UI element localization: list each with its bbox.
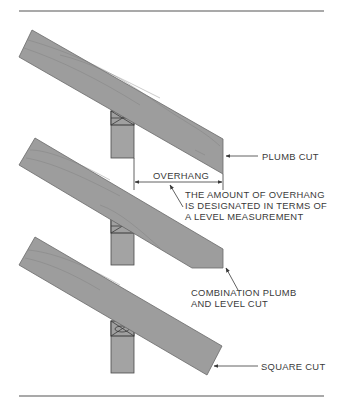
- overhang-note-line-3: A LEVEL MEASUREMENT: [185, 211, 303, 222]
- overhang-note-line-2: IS DESIGNATED IN TERMS OF: [185, 200, 327, 211]
- rafter-tail-cuts-diagram: PLUMB CUT OVERHANG THE AMOUNT OF OVERHAN…: [0, 0, 343, 401]
- overhang-note-leader: [170, 185, 183, 207]
- plumb-cut-label: PLUMB CUT: [262, 151, 319, 162]
- combination-cut-label-line-1: COMBINATION PLUMB: [191, 287, 296, 298]
- panel-square-cut: SQUARE CUT: [19, 237, 325, 375]
- combination-cut-label-line-2: AND LEVEL CUT: [191, 298, 268, 309]
- panel-plumb-cut: PLUMB CUT OVERHANG THE AMOUNT OF OVERHAN…: [19, 30, 327, 222]
- overhang-label: OVERHANG: [153, 170, 209, 181]
- square-cut-label: SQUARE CUT: [261, 361, 325, 372]
- overhang-note-line-1: THE AMOUNT OF OVERHANG: [185, 189, 325, 200]
